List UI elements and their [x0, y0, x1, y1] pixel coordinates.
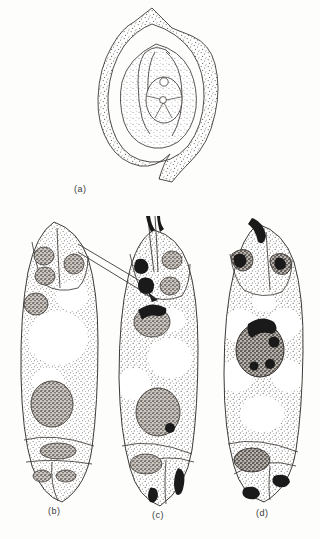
egg-cell-nucleus [160, 277, 180, 295]
antipodal-nucleus [56, 470, 76, 482]
vacuole [28, 311, 88, 365]
antipodal-nucleus [40, 443, 76, 459]
synergid-nucleus [162, 251, 182, 269]
antipodal-nucleus [130, 454, 162, 474]
nucleolus [165, 423, 175, 433]
nucleolus [250, 362, 259, 371]
antipodal-nucleus [33, 470, 51, 482]
polar-nucleus [24, 293, 48, 315]
ovule-egg-nucleus [160, 78, 168, 86]
secondary-nucleus [31, 381, 73, 427]
vacuole [240, 396, 284, 432]
panel-d-embryo-sac: (d) [208, 218, 313, 510]
panel-c-embryo-sac: (c) [108, 216, 208, 512]
nucleolus [269, 337, 280, 348]
panel-a-ovule: (a) [60, 2, 245, 184]
synergid-nucleus [34, 247, 54, 265]
nucleolus [265, 359, 275, 369]
figure-plate: (a) [0, 0, 320, 539]
panel-a-label: (a) [74, 184, 87, 194]
vacuole [56, 281, 88, 311]
antipodal-nucleus [234, 448, 270, 472]
ovule-polar-nucleus [160, 97, 167, 104]
panel-b-label: (b) [48, 506, 61, 516]
male-gamete [138, 278, 154, 294]
vacuole [148, 338, 192, 378]
egg-cell-nucleus [64, 254, 84, 274]
sac-c-fusing-nucleus [134, 304, 170, 337]
panel-d-label: (d) [256, 508, 269, 518]
panel-c-label: (c) [152, 510, 164, 520]
synergid-nucleus [35, 267, 55, 285]
sac-c-secondary-nucleus [136, 388, 180, 436]
